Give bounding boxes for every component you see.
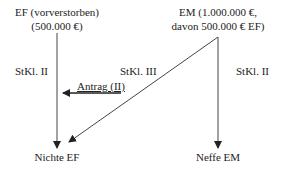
node-ef-amount: (500.000 €) <box>31 20 82 32</box>
antrag-label: Antrag (II) <box>77 80 125 92</box>
edge-label-ef-nichte: StKl. II <box>15 65 48 77</box>
edge-label-em-nichte: StKl. III <box>120 65 157 77</box>
node-neffe: Neffe EM <box>196 151 240 163</box>
node-em-name: EM (1.000.000 €, <box>179 6 257 18</box>
node-ef-name: EF (vorverstorben) <box>15 6 99 18</box>
edge-label-em-neffe: StKl. II <box>236 65 269 77</box>
node-em-amount: davon 500.000 € EF) <box>172 20 265 32</box>
node-nichte: Nichte EF <box>35 151 80 163</box>
